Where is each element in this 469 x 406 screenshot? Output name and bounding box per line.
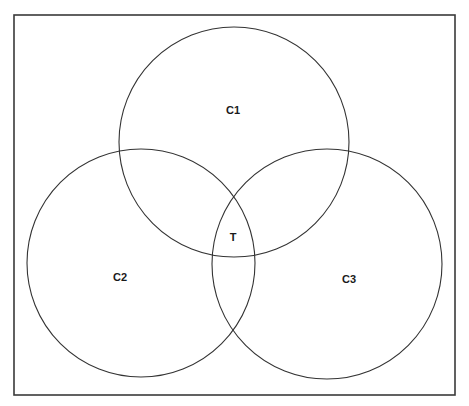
label-c3: C3	[342, 273, 356, 285]
venn-diagram: C1 T C2 C3	[0, 0, 469, 406]
circle-c2	[27, 149, 255, 377]
label-intersection-t: T	[230, 231, 237, 243]
label-c1: C1	[226, 104, 240, 116]
circle-c1	[119, 27, 349, 257]
label-c2: C2	[113, 271, 127, 283]
frame-border	[14, 15, 455, 395]
circle-c3	[212, 149, 442, 379]
